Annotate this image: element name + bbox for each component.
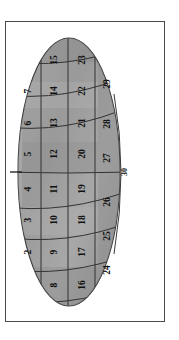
cell-7-label: 7 [23, 88, 33, 93]
ellipse-grid-svg: 2345678910111213141516171819202122232425… [6, 22, 165, 322]
cell-19-label: 19 [77, 184, 87, 194]
ellipse-diagram: 2345678910111213141516171819202122232425… [6, 22, 165, 322]
cell-22-label: 22 [77, 86, 87, 96]
cell-14-label: 14 [49, 86, 59, 96]
cell-26-label: 26 [102, 197, 112, 207]
cell-3-label: 3 [23, 217, 33, 222]
cell-13-label: 13 [49, 118, 59, 128]
cell-2-label: 2 [23, 249, 33, 254]
figure-frame: 2345678910111213141516171819202122232425… [5, 21, 165, 322]
cell-20-label: 20 [77, 149, 87, 159]
cell-27-label: 27 [102, 153, 112, 163]
cell-6-label: 6 [23, 120, 33, 125]
edge-label-30: 30 [120, 168, 129, 176]
cell-12-label: 12 [49, 149, 59, 159]
cell-11-label: 11 [49, 184, 59, 193]
cell-8-label: 8 [49, 282, 59, 287]
cell-21-label: 21 [77, 118, 87, 128]
cell-24-label: 24 [102, 265, 112, 275]
ellipse-body [6, 22, 165, 322]
cell-9-label: 9 [49, 249, 59, 254]
cell-15-label: 15 [49, 55, 59, 65]
cell-5-label: 5 [23, 151, 33, 156]
cell-4-label: 4 [23, 186, 33, 191]
cell-10-label: 10 [49, 215, 59, 225]
cell-25-label: 25 [102, 231, 112, 241]
cell-18-label: 18 [77, 215, 87, 225]
cell-29-label: 29 [102, 79, 112, 89]
screenshot-canvas: 2345678910111213141516171819202122232425… [0, 0, 179, 340]
cell-16-label: 16 [77, 280, 87, 290]
cell-17-label: 17 [77, 247, 87, 257]
cell-28-label: 28 [102, 119, 112, 129]
cell-23-label: 23 [77, 55, 87, 65]
